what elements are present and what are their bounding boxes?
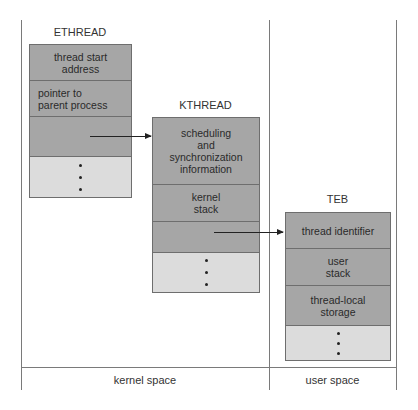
left-border — [21, 20, 22, 390]
user-space-label: user space — [269, 374, 396, 386]
teb-field-thread-identifier: thread identifier — [286, 213, 390, 249]
ethread-field-parent-process: pointer to parent process — [30, 81, 131, 117]
right-border — [396, 20, 397, 390]
arrow-kthread-to-teb — [214, 232, 283, 233]
region-label-divider — [21, 367, 397, 368]
kthread-field-kernel-stack: kernel stack — [153, 185, 259, 222]
teb-field-user-stack: user stack — [286, 249, 390, 286]
ellipsis-dot-icon — [79, 164, 82, 167]
ellipsis-dot-icon — [79, 188, 82, 191]
teb-structure: thread identifier user stack thread-loca… — [285, 212, 391, 361]
kthread-title: KTHREAD — [152, 99, 259, 111]
ellipsis-dot-icon — [205, 283, 208, 286]
ethread-structure: thread start address pointer to parent p… — [29, 44, 132, 198]
kthread-field-scheduling: scheduling and synchronization informati… — [153, 118, 259, 185]
kernel-space-label: kernel space — [21, 374, 269, 386]
ellipsis-dot-icon — [205, 271, 208, 274]
ethread-title: ETHREAD — [29, 26, 131, 38]
teb-field-more — [286, 326, 390, 360]
teb-title: TEB — [285, 193, 390, 205]
ethread-field-more — [30, 157, 131, 197]
ellipsis-dot-icon — [337, 332, 340, 335]
kthread-structure: scheduling and synchronization informati… — [152, 117, 260, 293]
ellipsis-dot-icon — [205, 259, 208, 262]
ethread-field-kthread-pointer — [30, 117, 131, 157]
ellipsis-dot-icon — [337, 342, 340, 345]
ellipsis-dot-icon — [337, 352, 340, 355]
kthread-field-teb-pointer — [153, 222, 259, 253]
ethread-field-start-address: thread start address — [30, 45, 131, 81]
ellipsis-dot-icon — [79, 176, 82, 179]
kernel-user-divider — [269, 20, 270, 390]
teb-field-thread-local-storage: thread-local storage — [286, 286, 390, 326]
kthread-field-more — [153, 253, 259, 292]
arrow-ethread-to-kthread — [90, 136, 151, 137]
